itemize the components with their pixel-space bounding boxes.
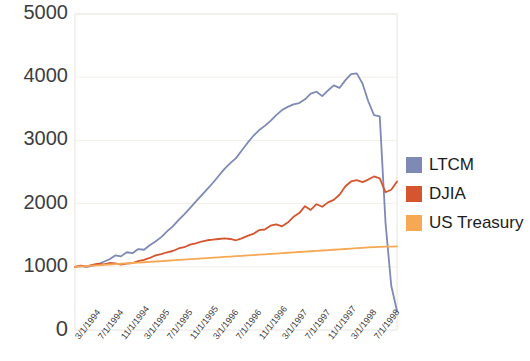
legend-swatch-icon <box>406 186 422 202</box>
legend-label: DJIA <box>429 184 466 204</box>
legend-item-ltcm[interactable]: LTCM <box>406 150 530 179</box>
legend-item-us-treasury[interactable]: US Treasury <box>406 208 530 237</box>
legend-swatch-icon <box>406 157 422 173</box>
legend-item-djia[interactable]: DJIA <box>406 179 530 208</box>
chart-legend: LTCMDJIAUS Treasury <box>406 150 530 237</box>
legend-swatch-icon <box>406 215 422 231</box>
legend-label: US Treasury <box>429 213 523 233</box>
legend-label: LTCM <box>429 155 474 175</box>
plot-background <box>75 14 397 330</box>
plot-frame <box>75 14 397 330</box>
chart-container: 010002000300040005000 3/1/19947/1/199411… <box>0 0 530 361</box>
